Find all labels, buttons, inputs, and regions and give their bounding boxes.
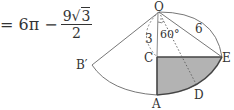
angle-mark: [158, 21, 164, 23]
label-bprime: B′: [76, 58, 88, 72]
label-length-3: 3: [145, 32, 153, 46]
label-o: O: [154, 0, 164, 14]
shaded-region: [157, 57, 222, 95]
label-e: E: [222, 51, 231, 65]
arc-bprime-a: [92, 65, 157, 95]
label-angle-60: 60°: [160, 28, 180, 41]
geometry-diagram: O A B′ C D E 3 6 60°: [0, 0, 234, 110]
label-a: A: [151, 97, 161, 110]
angle-dot: [160, 18, 161, 19]
label-d: D: [194, 88, 204, 102]
segment-o-c: [157, 12, 158, 57]
label-length-6: 6: [195, 22, 203, 36]
label-c: C: [144, 51, 153, 65]
